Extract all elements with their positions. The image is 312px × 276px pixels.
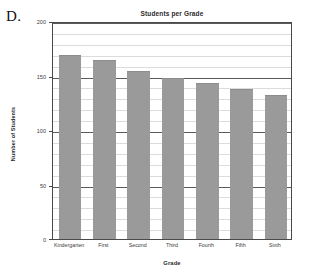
x-tick-label: Fourth bbox=[199, 242, 214, 248]
bar bbox=[162, 78, 185, 239]
bar bbox=[127, 71, 150, 239]
x-tick-label: Sixth bbox=[269, 242, 281, 248]
x-axis-ticks: KindergartenFirstSecondThirdFourthFifthS… bbox=[52, 242, 292, 254]
x-tick-label: Kindergarten bbox=[54, 242, 84, 248]
x-tick-label: Fifth bbox=[235, 242, 245, 248]
y-tick-mark bbox=[49, 186, 52, 187]
x-tick-label: Third bbox=[166, 242, 178, 248]
bar bbox=[59, 55, 82, 239]
x-tick-label: Second bbox=[129, 242, 147, 248]
y-tick-label: 0 bbox=[43, 237, 46, 243]
bar bbox=[230, 89, 253, 239]
y-tick-mark bbox=[49, 239, 52, 240]
y-tick-mark bbox=[49, 77, 52, 78]
bars-layer bbox=[53, 23, 291, 239]
chart-title: Students per Grade bbox=[52, 10, 292, 17]
y-tick-label: 150 bbox=[37, 74, 46, 80]
y-tick-mark bbox=[49, 131, 52, 132]
bar bbox=[265, 95, 288, 239]
y-tick-label: 200 bbox=[37, 19, 46, 25]
plot-area bbox=[52, 22, 292, 240]
y-tick-label: 100 bbox=[37, 128, 46, 134]
x-axis-title: Grade bbox=[52, 260, 292, 266]
figure-panel: D. Students per Grade 050100150200 Numbe… bbox=[0, 0, 312, 276]
y-tick-mark bbox=[49, 22, 52, 23]
x-tick-label: First bbox=[98, 242, 108, 248]
y-axis-title: Number of Students bbox=[10, 89, 16, 179]
y-tick-label: 50 bbox=[40, 183, 46, 189]
bar bbox=[196, 83, 219, 239]
y-axis-ticks: 050100150200 bbox=[0, 22, 52, 240]
bar bbox=[93, 60, 116, 239]
